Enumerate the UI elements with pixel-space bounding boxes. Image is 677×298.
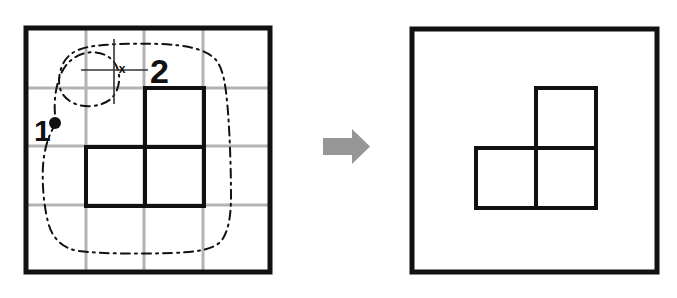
figure-canvas: x 2 1	[0, 0, 677, 298]
transform-arrow	[323, 129, 370, 164]
right-panel-group	[412, 29, 657, 272]
crosshair-x-glyph: x	[119, 62, 126, 76]
figure-root: Grid region outline to extracted polyomi…	[0, 0, 677, 298]
crosshair-marker: x	[81, 39, 148, 104]
left-panel-group: x 2 1	[26, 28, 270, 272]
left-panel-grid	[28, 30, 268, 270]
left-panel-frame	[26, 28, 270, 272]
annotation-label-2: 2	[150, 52, 169, 90]
start-point-dot	[49, 117, 61, 129]
annotation-label-1: 1	[34, 114, 51, 147]
